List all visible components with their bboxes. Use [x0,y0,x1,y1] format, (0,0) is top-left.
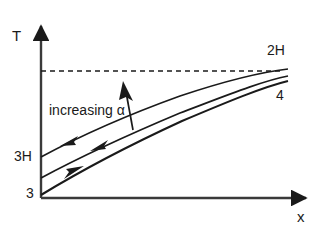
increasing-alpha-label: increasing α [49,103,125,117]
y-axis-label: T [12,28,21,43]
curve-middle [41,76,288,178]
curve-label-4: 4 [276,88,284,102]
curve-2h-direction-arrowhead [60,136,78,146]
curve-label-2h: 2H [267,43,285,57]
y-tick-label-3h: 3H [14,149,32,163]
thermodynamic-diagram: T x 3H 3 2H 4 increasing α [0,0,327,230]
increasing-alpha-arrowhead [119,81,133,101]
y-tick-label-3: 3 [26,186,34,200]
x-axis-label: x [297,209,305,224]
